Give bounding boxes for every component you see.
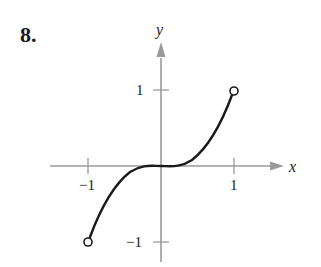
y-tick-label-pos1: 1 — [136, 82, 144, 98]
x-axis-label: x — [288, 158, 296, 175]
y-axis — [153, 42, 169, 262]
y-axis-arrow-icon — [157, 42, 166, 57]
open-endpoint-left — [84, 238, 92, 246]
function-graph: x y −1 1 1 −1 — [0, 0, 321, 267]
open-endpoint-right — [230, 87, 238, 95]
x-tick-label-pos1: 1 — [230, 177, 238, 193]
y-axis-label: y — [154, 21, 164, 39]
y-tick-label-neg1: −1 — [126, 234, 142, 250]
x-tick-label-neg1: −1 — [79, 177, 95, 193]
x-axis-arrow-icon — [270, 162, 284, 171]
